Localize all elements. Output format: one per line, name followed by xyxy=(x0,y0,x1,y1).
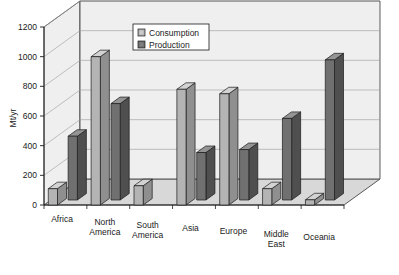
x-category-label-4: Europe xyxy=(220,226,248,236)
bar-production-0-side xyxy=(77,130,86,200)
bar-consumption-1-side xyxy=(100,50,109,205)
x-category-label-2: South xyxy=(137,220,159,230)
bar-consumption-2-front xyxy=(134,186,143,205)
bar-production-4-front xyxy=(240,150,249,200)
bar-consumption-4-side xyxy=(229,87,238,205)
y-tick-label: 1000 xyxy=(18,52,37,62)
x-category-label-2: America xyxy=(132,230,163,240)
bar-consumption-4-front xyxy=(220,94,229,205)
y-tick-label: 0 xyxy=(32,200,37,210)
bar-production-6-side xyxy=(335,53,344,200)
bar-production-0-front xyxy=(68,136,77,200)
legend-label-1: Production xyxy=(149,40,190,50)
x-category-label-5: Middle xyxy=(264,229,289,239)
y-tick-label: 1200 xyxy=(18,22,37,32)
x-category-label-0: Africa xyxy=(51,214,73,224)
bar-consumption-0-front xyxy=(48,189,57,205)
legend-label-0: Consumption xyxy=(149,28,199,38)
bar-production-3-front xyxy=(197,153,206,200)
bar-consumption-6-front xyxy=(305,200,314,205)
bar-production-5-front xyxy=(282,118,291,200)
bar-production-1-side xyxy=(120,97,129,200)
y-tick-label: 400 xyxy=(23,141,37,151)
chart-container: 020040060080010001200Mt/yrAfricaNorthAme… xyxy=(0,0,399,275)
bar-consumption-5-front xyxy=(263,189,272,205)
bar-production-1-front xyxy=(111,104,120,200)
x-category-label-6: Oceania xyxy=(303,232,335,242)
x-category-label-3: Asia xyxy=(182,223,199,233)
bar-production-6-front xyxy=(325,60,334,200)
bar-consumption-1-front xyxy=(91,57,100,205)
x-category-label-1: America xyxy=(89,227,120,237)
bar-production-5-side xyxy=(292,112,301,200)
x-category-label-1: North xyxy=(94,217,115,227)
bar-chart-3d: 020040060080010001200Mt/yrAfricaNorthAme… xyxy=(0,0,399,275)
x-category-label-5: East xyxy=(268,239,286,249)
y-tick-label: 800 xyxy=(23,81,37,91)
legend-swatch-hl-1 xyxy=(140,43,144,47)
bar-consumption-3-side xyxy=(186,83,195,205)
legend-swatch-hl-0 xyxy=(140,31,144,35)
y-tick-label: 200 xyxy=(23,170,37,180)
bar-production-3-side xyxy=(206,146,215,200)
bar-production-4-side xyxy=(249,143,258,200)
y-axis-title: Mt/yr xyxy=(8,108,18,127)
bar-consumption-3-front xyxy=(177,89,186,205)
y-tick-label: 600 xyxy=(23,111,37,121)
